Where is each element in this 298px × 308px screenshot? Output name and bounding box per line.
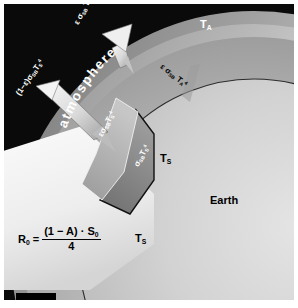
formula-fraction: (1 − A) · S0 4	[42, 226, 100, 253]
formula-incoming-solar: R0 = (1 − A) · S0 4	[18, 226, 101, 253]
diagram-svg	[4, 4, 294, 300]
diagram-stage: ε σSB TA4 (1−ε)σSBTS4 ε σSB TA4 εσSBTS4 …	[4, 4, 294, 300]
figure-root: ε σSB TA4 (1−ε)σSBTS4 ε σSB TA4 εσSBTS4 …	[0, 0, 298, 308]
formula-lhs: R0	[18, 233, 30, 246]
formula-numerator: (1 − A) · S0	[42, 226, 100, 238]
formula-denominator: 4	[66, 241, 76, 253]
scale-bar	[16, 293, 56, 300]
formula-equals: =	[33, 233, 39, 245]
